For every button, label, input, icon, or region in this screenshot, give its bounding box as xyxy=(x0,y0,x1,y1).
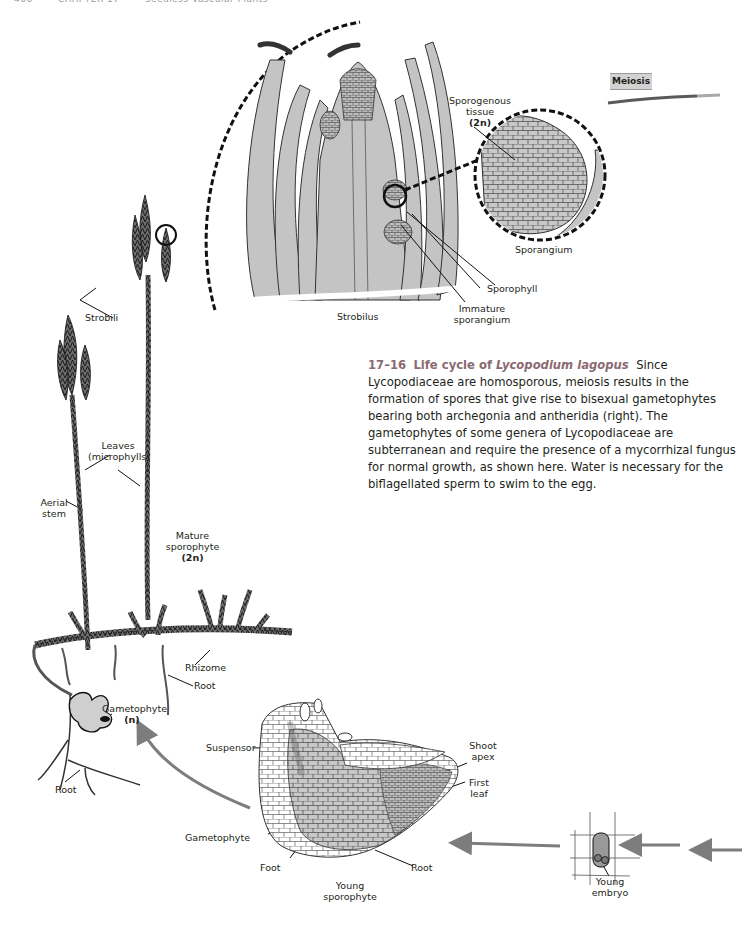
meiosis-badge: Meiosis xyxy=(610,73,652,90)
strobilus-section xyxy=(247,42,460,300)
label-rhizome: Rhizome xyxy=(185,662,226,673)
label-shoot-apex: Shoot apex xyxy=(468,740,498,762)
label-young-sporophyte: Young sporophyte xyxy=(320,880,380,902)
label-mature-sporophyte: Mature sporophyte (2n) xyxy=(165,530,220,563)
label-sporogenous-tissue-text: Sporogenous tissue xyxy=(449,95,511,117)
label-gametophyte-ploidy: (n) xyxy=(124,714,139,725)
label-young-embryo: Young embryo xyxy=(590,876,630,898)
label-gametophyte-n-text: Gametophyte xyxy=(102,703,167,714)
label-root-lower: Root xyxy=(55,784,77,795)
figure-title-prefix: Life cycle of xyxy=(413,358,496,372)
label-immature-sporangium: Immature sporangium xyxy=(452,303,512,325)
label-root-embryo: Root xyxy=(411,862,433,873)
figure-title-species: Lycopodium lagopus xyxy=(496,358,629,372)
label-aerial-stem: Aerial stem xyxy=(40,497,68,519)
sporangium-magnified xyxy=(475,110,607,245)
label-foot: Foot xyxy=(260,862,280,873)
label-mature-ploidy: (2n) xyxy=(181,552,203,563)
label-gametophyte: Gametophyte xyxy=(185,832,250,843)
label-root-upper: Root xyxy=(194,680,216,691)
young-sporophyte-drawing xyxy=(259,699,458,857)
label-first-leaf: First leaf xyxy=(467,777,491,799)
figure-caption: 17–16 Life cycle of Lycopodium lagopus S… xyxy=(368,357,742,493)
label-sporangium: Sporangium xyxy=(515,244,573,255)
label-strobili: Strobili xyxy=(85,312,118,323)
label-leaves: Leaves (microphylls) xyxy=(88,440,148,462)
label-sporophyll: Sporophyll xyxy=(487,283,537,294)
label-strobilus: Strobilus xyxy=(337,311,379,322)
figure-caption-body: Since Lycopodiaceae are homosporous, mei… xyxy=(368,358,736,491)
figure-title: Life cycle of Lycopodium lagopus xyxy=(413,358,628,372)
label-mature-sporophyte-text: Mature sporophyte xyxy=(166,530,220,552)
label-sporogenous-tissue: Sporogenous tissue (2n) xyxy=(445,95,515,128)
label-sporogenous-ploidy: (2n) xyxy=(469,117,491,128)
young-embryo-drawing xyxy=(570,812,640,885)
label-gametophyte-n: Gametophyte (n) xyxy=(102,703,162,725)
arrow-sporophyte-to-gametophyte xyxy=(460,843,560,846)
label-suspensor: Suspensor xyxy=(206,742,256,753)
figure-number: 17–16 xyxy=(368,358,406,372)
meiosis-arrow-bar xyxy=(608,96,697,103)
